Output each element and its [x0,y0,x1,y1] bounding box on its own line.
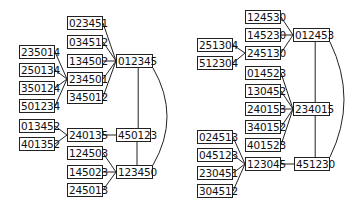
node-350124: 350124 [19,81,55,95]
node-130452: 130452 [245,84,281,98]
node-235014: 235014 [19,45,55,59]
node-240135: 240135 [67,128,103,142]
arc-edge-012453-451230 [330,42,344,157]
node-501234: 501234 [19,99,55,113]
node-145230: 145230 [245,28,281,42]
node-124530: 124530 [245,10,281,24]
node-123450: 123450 [116,165,153,179]
node-023451: 023451 [67,16,103,30]
node-034512: 034512 [67,35,103,49]
node-123045: 123045 [245,157,281,171]
node-045123: 045123 [197,148,233,162]
node-240153: 240153 [245,102,281,116]
node-012345: 012345 [116,54,153,68]
node-245013: 245013 [67,183,103,197]
node-134502: 134502 [67,54,103,68]
node-401523: 401523 [245,138,281,152]
node-014523: 014523 [245,66,281,80]
node-401352: 401352 [19,137,55,151]
node-340152: 340152 [245,120,281,134]
node-345012: 345012 [67,90,103,104]
permutation-graph-diagram: 0234510345121345020123452350142501343501… [0,0,363,207]
node-234015: 234015 [293,102,330,116]
arc-edge-012345-123450 [153,68,167,165]
node-304512: 304512 [197,184,233,198]
node-012453: 012453 [293,28,330,42]
node-124503: 124503 [67,146,103,160]
node-230451: 230451 [197,166,233,180]
node-145023: 145023 [67,165,103,179]
node-234501: 234501 [67,72,103,86]
node-024513: 024513 [197,130,233,144]
node-512304: 512304 [197,56,233,70]
node-245130: 245130 [245,46,281,60]
node-013452: 013452 [19,119,55,133]
node-451230: 451230 [294,157,330,171]
node-450123: 450123 [116,128,151,142]
node-250134: 250134 [19,63,55,77]
node-251304: 251304 [197,38,233,52]
